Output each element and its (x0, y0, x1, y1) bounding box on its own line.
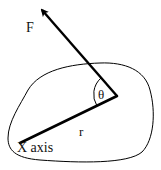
torque-diagram: F θ r X axis (0, 0, 161, 170)
force-vector (42, 10, 117, 96)
radius-label: r (79, 124, 84, 139)
radius-line (20, 96, 117, 143)
angle-label: θ (98, 87, 104, 102)
force-label: F (26, 20, 34, 35)
axis-label: X axis (17, 140, 53, 155)
